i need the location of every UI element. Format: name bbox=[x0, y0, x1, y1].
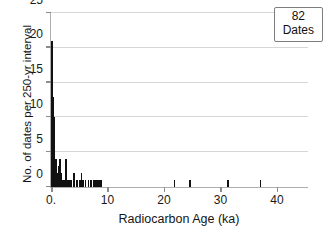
gridline bbox=[51, 12, 308, 13]
x-axis-tick bbox=[220, 187, 222, 192]
y-axis-tick-label: 5 bbox=[36, 132, 43, 146]
histogram-bar bbox=[100, 180, 102, 187]
dates-count-value: 82 bbox=[283, 10, 314, 24]
histogram-bar bbox=[189, 180, 191, 187]
x-axis-tick-label: 0. bbox=[46, 193, 56, 207]
x-axis-tick-label: 20 bbox=[157, 193, 170, 207]
histogram-bar bbox=[85, 180, 87, 187]
x-axis-tick-label: 30 bbox=[214, 193, 227, 207]
x-axis-tick bbox=[164, 187, 166, 192]
gridline bbox=[51, 151, 308, 152]
y-axis-tick bbox=[46, 12, 51, 14]
x-axis-tick bbox=[107, 187, 109, 192]
dates-count-annotation: 82 Dates bbox=[274, 7, 323, 42]
histogram-bar bbox=[82, 180, 84, 187]
histogram-bar bbox=[227, 180, 229, 187]
x-axis-tick-label: 40 bbox=[270, 193, 283, 207]
x-axis-tick bbox=[277, 187, 279, 192]
y-axis-tick-label: 0 bbox=[36, 167, 43, 181]
plot-area: 05101520250.10203040 bbox=[50, 13, 308, 188]
dates-count-label: Dates bbox=[283, 24, 314, 38]
histogram-bar bbox=[76, 180, 78, 187]
histogram-bar bbox=[174, 180, 176, 187]
histogram-bar bbox=[71, 180, 73, 187]
histogram-bar bbox=[260, 180, 262, 187]
y-axis-title: No. of dates per 250-yr interval bbox=[21, 16, 33, 192]
x-axis-tick-label: 10 bbox=[101, 193, 114, 207]
x-axis-tick bbox=[51, 187, 53, 192]
histogram-figure: 05101520250.10203040 No. of dates per 25… bbox=[0, 0, 331, 239]
y-axis-tick-label: 25 bbox=[30, 0, 43, 7]
gridline bbox=[51, 82, 308, 83]
histogram-bar bbox=[90, 180, 92, 187]
gridline bbox=[51, 47, 308, 48]
gridline bbox=[51, 116, 308, 117]
x-axis-title: Radiocarbon Age (ka) bbox=[50, 212, 308, 226]
histogram-bar bbox=[73, 173, 75, 187]
histogram-bar bbox=[88, 180, 90, 187]
